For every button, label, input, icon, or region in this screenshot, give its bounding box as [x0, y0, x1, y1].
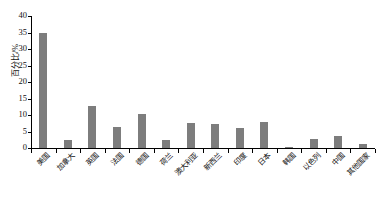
bar — [211, 124, 219, 148]
bar — [310, 139, 318, 148]
bar-chart-figure: 百分比/% 0510152025303540 美国加拿大英国法国德国荷兰澳大利亚… — [0, 0, 381, 203]
y-tick-mark — [28, 66, 32, 67]
y-tick-label: 25 — [19, 60, 28, 71]
y-tick-label: 10 — [19, 109, 28, 120]
y-tick-label: 30 — [19, 43, 28, 54]
x-axis-labels: 美国加拿大英国法国德国荷兰澳大利亚新西兰印度日本韩国以色列中国其他国家 — [31, 151, 375, 203]
bar — [260, 122, 268, 148]
bar — [162, 140, 170, 148]
x-tick-mark — [375, 149, 376, 153]
y-tick-mark — [28, 16, 32, 17]
y-tick-label: 15 — [19, 93, 28, 104]
bar — [113, 127, 121, 148]
y-tick-mark — [28, 132, 32, 133]
y-tick-mark — [28, 115, 32, 116]
y-tick-mark — [28, 33, 32, 34]
y-tick-label: 5 — [23, 126, 27, 137]
y-tick-mark — [28, 99, 32, 100]
bar — [359, 144, 367, 148]
bar — [187, 123, 195, 148]
y-tick-mark — [28, 49, 32, 50]
y-tick-label: 0 — [23, 142, 27, 153]
y-tick-label: 35 — [19, 27, 28, 38]
plot-area: 0510152025303540 — [31, 16, 375, 149]
bar — [88, 106, 96, 148]
bar — [64, 140, 72, 148]
bar — [138, 114, 146, 148]
y-tick-label: 40 — [19, 10, 28, 21]
bar — [236, 128, 244, 148]
y-tick-mark — [28, 82, 32, 83]
bar — [334, 136, 342, 148]
bar — [285, 147, 293, 148]
y-tick-label: 20 — [19, 76, 28, 87]
bar — [39, 33, 47, 149]
